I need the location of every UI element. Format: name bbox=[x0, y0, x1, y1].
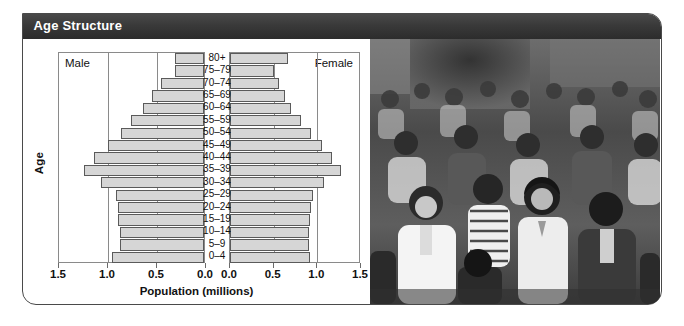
age-label-5–9: 5–9 bbox=[195, 239, 239, 249]
card-header: Age Structure bbox=[22, 13, 662, 39]
age-label-45–49: 45–49 bbox=[195, 140, 239, 150]
x-tick-label-left-1.0: 1.0 bbox=[87, 268, 127, 280]
bar-left-40–44 bbox=[94, 152, 204, 163]
age-label-60–64: 60–64 bbox=[195, 102, 239, 112]
bar-right-60–64 bbox=[230, 103, 291, 114]
bar-right-50–54 bbox=[230, 128, 311, 139]
card-body: Age Male Female 80+75–7970–7465–6960–645… bbox=[23, 39, 660, 304]
bar-left-35–39 bbox=[84, 165, 204, 176]
age-label-30–34: 30–34 bbox=[195, 177, 239, 187]
age-label-10–14: 10–14 bbox=[195, 226, 239, 236]
bar-right-25–29 bbox=[230, 190, 313, 201]
bar-right-35–39 bbox=[230, 165, 341, 176]
x-tick-label-left-0.5: 0.5 bbox=[136, 268, 176, 280]
plot-area-male: Male bbox=[58, 52, 205, 263]
bar-left-50–54 bbox=[121, 128, 204, 139]
age-label-80+: 80+ bbox=[195, 53, 239, 63]
bar-left-55–59 bbox=[131, 115, 204, 126]
age-label-35–39: 35–39 bbox=[195, 164, 239, 174]
x-tick-label-right-0.5: 0.5 bbox=[253, 268, 293, 280]
age-label-25–29: 25–29 bbox=[195, 189, 239, 199]
bar-right-15–19 bbox=[230, 214, 310, 225]
age-label-15–19: 15–19 bbox=[195, 214, 239, 224]
crowd-photo bbox=[370, 39, 660, 304]
bar-right-10–14 bbox=[230, 227, 309, 238]
age-group-labels: 80+75–7970–7465–6960–6455–5950–5445–4940… bbox=[205, 52, 229, 263]
x-axis-title: Population (millions) bbox=[23, 285, 370, 297]
bar-right-0–4 bbox=[230, 252, 310, 263]
population-pyramid-chart: Age Male Female 80+75–7970–7465–6960–645… bbox=[23, 39, 370, 304]
bar-left-10–14 bbox=[120, 227, 204, 238]
bar-right-55–59 bbox=[230, 115, 301, 126]
crowd-photo-image bbox=[370, 39, 660, 304]
age-label-20–24: 20–24 bbox=[195, 202, 239, 212]
age-label-75–79: 75–79 bbox=[195, 65, 239, 75]
age-label-55–59: 55–59 bbox=[195, 115, 239, 125]
bar-left-45–49 bbox=[108, 140, 204, 151]
bar-left-0–4 bbox=[112, 252, 204, 263]
age-label-40–44: 40–44 bbox=[195, 152, 239, 162]
age-label-0–4: 0–4 bbox=[195, 251, 239, 261]
bars-female bbox=[230, 53, 359, 262]
bar-left-20–24 bbox=[118, 202, 204, 213]
bar-right-30–34 bbox=[230, 177, 324, 188]
bar-right-40–44 bbox=[230, 152, 332, 163]
plot-area-female: Female bbox=[229, 52, 360, 263]
bar-left-30–34 bbox=[101, 177, 204, 188]
bars-male bbox=[59, 53, 204, 262]
age-label-50–54: 50–54 bbox=[195, 127, 239, 137]
x-tick-label-right-0.0: 0.0 bbox=[209, 268, 249, 280]
screenshot-root: Age Structure Age Male Female 80+75–7970… bbox=[0, 0, 684, 326]
age-label-70–74: 70–74 bbox=[195, 78, 239, 88]
page-title: Age Structure bbox=[22, 18, 122, 33]
bar-right-45–49 bbox=[230, 140, 322, 151]
bar-right-20–24 bbox=[230, 202, 311, 213]
age-label-65–69: 65–69 bbox=[195, 90, 239, 100]
bar-left-25–29 bbox=[116, 190, 204, 201]
x-tick-label-right-1.0: 1.0 bbox=[296, 268, 336, 280]
x-tick-label-left-1.5: 1.5 bbox=[38, 268, 78, 280]
bar-left-5–9 bbox=[120, 239, 204, 250]
age-structure-card: Age Structure Age Male Female 80+75–7970… bbox=[22, 13, 662, 305]
y-axis-title: Age bbox=[33, 133, 45, 193]
bar-left-15–19 bbox=[118, 214, 204, 225]
bar-right-5–9 bbox=[230, 239, 309, 250]
